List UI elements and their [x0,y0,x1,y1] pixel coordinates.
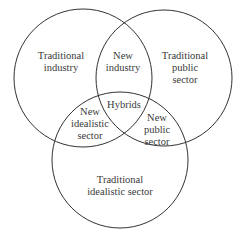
label-line: public [162,62,208,74]
label-line: New [71,106,109,118]
label-traditional-industry: Traditional industry [38,50,84,74]
label-new-idealistic-sector: New idealistic sector [71,106,109,142]
label-line: sector [144,136,170,148]
label-line: public [144,124,170,136]
label-new-public-sector: New public sector [144,112,170,148]
label-line: idealistic sector [87,186,153,198]
label-line: Traditional [38,50,84,62]
venn-diagram [0,0,245,233]
label-line: Traditional [87,174,153,186]
label-traditional-idealistic-sector: Traditional idealistic sector [87,174,153,198]
label-traditional-public-sector: Traditional public sector [162,50,208,86]
label-line: industry [106,62,140,74]
label-line: New [144,112,170,124]
label-line: New [106,50,140,62]
label-hybrids: Hybrids [107,99,141,111]
label-line: idealistic [71,118,109,130]
label-line: Hybrids [107,99,141,111]
label-line: Traditional [162,50,208,62]
label-line: sector [71,130,109,142]
label-line: industry [38,62,84,74]
label-new-industry: New industry [106,50,140,74]
label-line: sector [162,74,208,86]
